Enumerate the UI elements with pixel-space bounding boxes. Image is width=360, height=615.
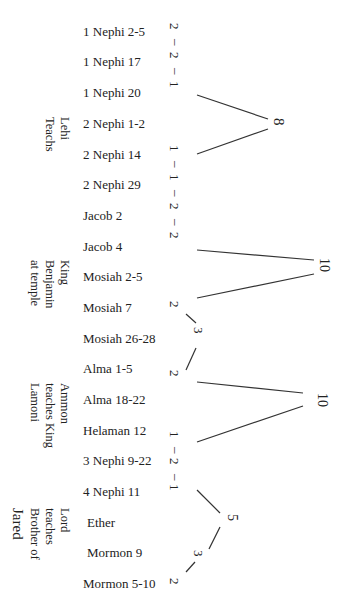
node-value: 3 — [192, 327, 205, 334]
count-value: 2 — [168, 301, 181, 308]
dash-separator: – — [170, 190, 183, 197]
chapter-label: 4 Nephi 11 — [83, 484, 140, 500]
count-value: 2 — [168, 232, 181, 239]
chapter-label: Mosiah 7 — [83, 300, 132, 316]
chapter-label: 1 Nephi 20 — [83, 85, 141, 101]
chapter-label: 2 Nephi 1-2 — [83, 116, 145, 132]
count-value: 2 — [168, 23, 181, 30]
connector-line — [209, 527, 220, 549]
chapter-label: Alma 1-5 — [83, 361, 132, 377]
connector-line — [197, 274, 314, 298]
count-value: 1 — [168, 81, 181, 88]
chapter-label: Mormon 5-10 — [83, 576, 156, 592]
count-value: 2 — [168, 203, 181, 210]
count-value: 2 — [168, 370, 181, 377]
peak-value: 10 — [318, 258, 331, 272]
connector-line — [197, 250, 314, 260]
peak-value: 5 — [226, 514, 239, 521]
chapter-label: 2 Nephi 29 — [83, 177, 141, 193]
peak-value: 8 — [272, 118, 285, 126]
connector-line — [197, 129, 268, 154]
node-value: 3 — [192, 550, 205, 557]
count-value: 1 — [168, 145, 181, 152]
count-value: 2 — [168, 52, 181, 59]
dash-separator: – — [170, 39, 183, 46]
dash-separator: – — [170, 161, 183, 168]
dash-separator: – — [170, 68, 183, 75]
connector-line — [186, 562, 195, 572]
chapter-label: 1 Nephi 17 — [83, 54, 141, 70]
chapter-label: 1 Nephi 2-5 — [83, 24, 145, 40]
group-label-king-benjamin: King Benjamin at temple — [27, 260, 72, 309]
group-label-lehi: Lehi Teachs — [42, 117, 72, 152]
chapter-label: Jacob 2 — [83, 208, 122, 224]
chapter-label: Jacob 4 — [83, 239, 122, 255]
connector-line — [186, 314, 196, 323]
chapter-label: Alma 18-22 — [83, 392, 145, 408]
group-label-brother-of-jared: Lord teaches Brother of — [27, 508, 72, 560]
count-value: 1 — [168, 174, 181, 181]
connector-line — [186, 348, 196, 370]
count-value: 1 — [168, 431, 181, 438]
group-label-jared: Jared — [10, 508, 26, 540]
dash-separator: – — [170, 474, 183, 481]
chapter-label: Mormon 9 — [87, 545, 142, 561]
chapter-label: 2 Nephi 14 — [83, 147, 141, 163]
chapter-label: Mosiah 2-5 — [83, 269, 143, 285]
chapter-label: 3 Nephi 9-22 — [83, 453, 152, 469]
connector-line — [197, 490, 220, 513]
connector-line — [197, 95, 268, 119]
connector-line — [197, 406, 303, 442]
dash-separator: – — [170, 219, 183, 226]
dash-separator: – — [170, 447, 183, 454]
count-value: 1 — [168, 484, 181, 491]
count-value: 2 — [168, 458, 181, 465]
count-value: 2 — [168, 578, 181, 585]
group-label-ammon: Ammon teaches King Lamoni — [27, 383, 72, 448]
peak-value: 10 — [316, 393, 329, 407]
chapter-label: Ether — [87, 515, 115, 531]
chapter-label: Helaman 12 — [83, 423, 146, 439]
chapter-label: Mosiah 26-28 — [83, 331, 156, 347]
connector-line — [197, 382, 303, 393]
